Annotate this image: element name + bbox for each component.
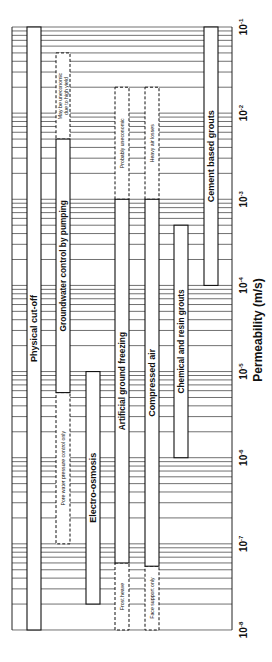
tick-label: 10-1	[238, 18, 249, 35]
bar-cement-based-grouts: Cement based grouts	[204, 27, 218, 285]
bar-label: Artificial ground freezing	[117, 332, 127, 430]
tick-label: 10-5	[238, 363, 249, 380]
bar-physical-cut-off: Physical cut-off	[27, 27, 41, 630]
bar-compressed-air: Face support onlyHeavy air lossesCompres…	[145, 87, 159, 630]
extension-note: Heavy air losses	[149, 124, 155, 162]
permeability-range-chart: Physical cut-offPore water pressure cont…	[0, 0, 272, 662]
tick-label: 10-7	[238, 535, 249, 552]
extension-note: Probably uneconomic	[119, 118, 125, 168]
bar-electro-osmosis: Electro-osmosis	[86, 372, 100, 604]
method-range-bars: Physical cut-offPore water pressure cont…	[27, 27, 218, 630]
extension-note: May be uneconomicdue to high yield	[57, 72, 69, 119]
tick-label: 10-8	[238, 621, 249, 638]
tick-label: 10-2	[238, 104, 249, 121]
bar-chemical-and-resin-grouts: Chemical and resin grouts	[174, 225, 188, 457]
extension-note: Frost heave	[119, 583, 125, 611]
x-axis-title: Permeability (m/s)	[251, 278, 265, 381]
extension-note: Face support only	[149, 577, 155, 619]
bar-artificial-ground-freezing: Frost heaveProbably uneconomicArtificial…	[115, 87, 129, 630]
bar-label: Chemical and resin grouts	[176, 289, 186, 394]
bar-label: Physical cut-off	[29, 294, 39, 362]
bar-label: Groundwater control by pumping	[58, 200, 68, 331]
bar-label: Electro-osmosis	[88, 453, 98, 523]
bar-label: Cement based grouts	[206, 110, 216, 202]
axis-tick-labels: 10-810-710-610-510-410-310-210-1	[238, 18, 249, 638]
tick-label: 10-6	[238, 449, 249, 466]
tick-label: 10-3	[238, 190, 249, 207]
extension-note: Pore water pressure control only	[60, 430, 66, 505]
tick-label: 10-4	[238, 277, 249, 294]
bar-groundwater-control-by-pumping: Pore water pressure control onlyMay be u…	[56, 53, 70, 544]
bar-label: Compressed air	[147, 348, 157, 417]
